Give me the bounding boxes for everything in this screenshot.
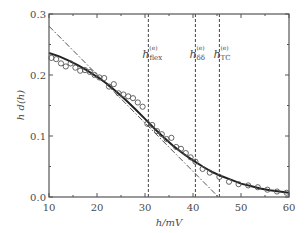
x-tick-label: 20 [91, 202, 104, 213]
fit-curve-path [49, 53, 289, 193]
threshold-label-superscript: (e) [149, 44, 157, 51]
data-point [73, 65, 78, 70]
threshold-label-superscript: (e) [196, 44, 204, 51]
data-point [130, 96, 135, 101]
data-point [63, 64, 68, 69]
fit-curve [49, 53, 289, 193]
data-point [140, 104, 145, 109]
data-point [54, 57, 59, 62]
data-point [111, 82, 116, 87]
data-point [169, 135, 174, 140]
x-axis-ticks: 102030405060 [43, 14, 296, 213]
data-point [135, 100, 140, 105]
x-tick-label: 50 [235, 202, 248, 213]
plot-frame [49, 14, 289, 197]
y-tick-label: 0.3 [30, 9, 46, 20]
x-tick-label: 10 [43, 202, 56, 213]
y-axis-label: h d(h) [15, 90, 26, 120]
data-points [49, 55, 289, 195]
x-tick-label: 30 [139, 202, 152, 213]
y-tick-label: 0.0 [30, 192, 46, 203]
x-axis-label: h/mV [156, 217, 184, 228]
threshold-label-superscript: (e) [220, 44, 228, 51]
chart: 102030405060 0.00.10.20.3 hflex(e)hδδ(e)… [0, 0, 306, 233]
data-point [58, 61, 63, 66]
x-tick-label: 60 [283, 202, 296, 213]
y-tick-label: 0.1 [30, 131, 46, 142]
y-tick-label: 0.2 [30, 70, 46, 81]
y-axis-ticks: 0.00.10.20.3 [30, 9, 289, 203]
x-tick-label: 40 [187, 202, 200, 213]
plot-border [49, 14, 289, 197]
threshold-annotations: hflex(e)hδδ(e)hTC(e) [142, 44, 230, 62]
